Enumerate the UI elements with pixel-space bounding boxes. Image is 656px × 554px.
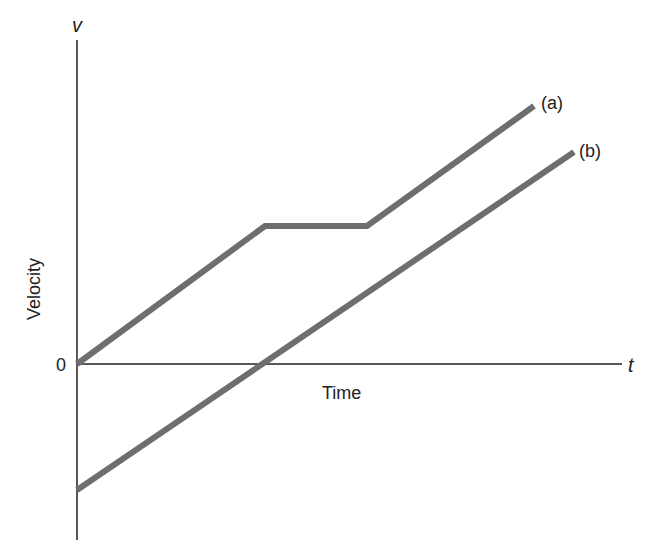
series-b-line [77,152,574,490]
series-a-label: (a) [541,93,563,113]
x-axis-symbol: t [628,354,635,376]
x-axis-label: Time [322,383,361,403]
series-a-line [77,106,534,364]
y-axis-label: Velocity [24,258,44,320]
velocity-time-chart: v t 0 Time Velocity (a) (b) [0,0,656,554]
series-b-label: (b) [579,141,601,161]
y-axis-symbol: v [72,14,83,36]
origin-label: 0 [56,355,66,375]
